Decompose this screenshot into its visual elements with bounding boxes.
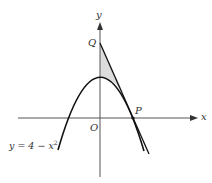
curve-equation-label: y = 4 − x2	[9, 140, 58, 151]
y-axis-label: y	[96, 10, 102, 20]
graph-canvas	[0, 0, 212, 183]
point-q-label: Q	[88, 38, 96, 48]
curve-equation-text: y = 4 − x	[9, 140, 54, 151]
curve-equation-exponent: 2	[54, 139, 58, 146]
origin-label: O	[90, 123, 98, 133]
y-axis-arrow-icon	[97, 22, 103, 30]
point-p-label: P	[135, 106, 142, 116]
x-axis-label: x	[201, 112, 207, 122]
tangent-line	[100, 43, 149, 154]
point-p-marker	[131, 116, 134, 119]
x-axis-arrow-icon	[190, 115, 198, 121]
